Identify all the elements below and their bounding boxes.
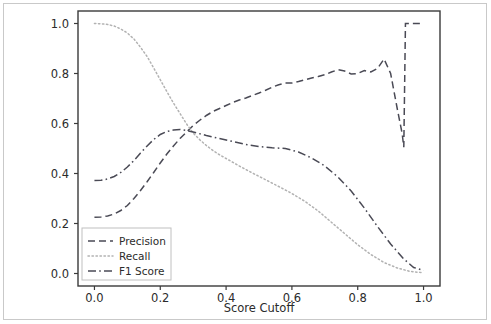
- y-tick-label: 0.6: [51, 117, 69, 131]
- y-tick-label: 0.8: [51, 67, 69, 81]
- figure-container: 0.00.20.40.60.81.0 0.00.20.40.60.81.0 Sc…: [0, 0, 491, 324]
- precision-recall-f1-chart: 0.00.20.40.60.81.0 0.00.20.40.60.81.0 Sc…: [0, 0, 491, 324]
- chart-legend[interactable]: PrecisionRecallF1 Score: [82, 228, 171, 280]
- legend-label-recall: Recall: [119, 250, 150, 262]
- legend-label-precision: Precision: [119, 235, 166, 247]
- y-axis-ticks: 0.00.20.40.60.81.0: [51, 17, 78, 281]
- x-tick-label: 0.2: [151, 291, 169, 305]
- x-tick-label: 0.0: [85, 291, 103, 305]
- y-tick-label: 0.0: [51, 267, 69, 281]
- y-tick-label: 0.2: [51, 217, 69, 231]
- x-tick-label: 0.8: [349, 291, 367, 305]
- legend-label-f1-score: F1 Score: [119, 265, 164, 277]
- y-tick-label: 0.4: [51, 167, 69, 181]
- x-tick-label: 1.0: [414, 291, 432, 305]
- y-tick-label: 1.0: [51, 17, 69, 31]
- x-axis-title: Score Cutoff: [224, 301, 296, 315]
